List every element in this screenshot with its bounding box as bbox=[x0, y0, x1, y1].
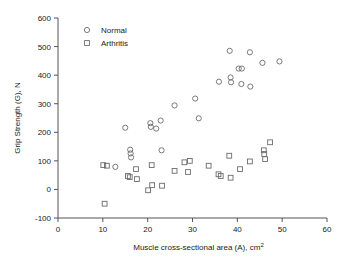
data-point-arthritis bbox=[160, 183, 165, 188]
data-point-normal bbox=[123, 125, 128, 130]
data-point-normal bbox=[216, 79, 221, 84]
data-point-arthritis bbox=[186, 170, 191, 175]
chart-data-points bbox=[101, 48, 282, 206]
y-tick-label: 200 bbox=[38, 128, 52, 137]
data-point-normal bbox=[154, 126, 159, 131]
data-point-arthritis bbox=[135, 177, 140, 182]
legend-label-normal: Normal bbox=[101, 26, 127, 35]
data-point-normal bbox=[148, 124, 153, 129]
data-point-normal bbox=[228, 80, 233, 85]
data-point-normal bbox=[172, 103, 177, 108]
data-point-arthritis bbox=[268, 140, 273, 145]
data-point-arthritis bbox=[172, 168, 177, 173]
data-point-arthritis bbox=[102, 201, 107, 206]
x-tick-label: 50 bbox=[278, 225, 287, 234]
data-point-normal bbox=[196, 116, 201, 121]
scatter-chart: -10001002003004005006000102030405060 Nor… bbox=[0, 0, 346, 269]
x-tick-label: 20 bbox=[143, 225, 152, 234]
legend-marker-normal bbox=[84, 27, 89, 32]
data-point-arthritis bbox=[228, 175, 233, 180]
data-point-normal bbox=[227, 48, 232, 53]
data-point-arthritis bbox=[206, 163, 211, 168]
data-point-normal bbox=[228, 75, 233, 80]
data-point-normal bbox=[239, 66, 244, 71]
chart-axes: -10001002003004005006000102030405060 bbox=[35, 14, 332, 234]
y-tick-label: -100 bbox=[35, 214, 52, 223]
data-point-normal bbox=[239, 81, 244, 86]
legend-label-arthritis: Arthritis bbox=[101, 39, 128, 48]
data-point-arthritis bbox=[238, 167, 243, 172]
data-point-arthritis bbox=[227, 153, 232, 158]
data-point-normal bbox=[159, 148, 164, 153]
data-point-normal bbox=[247, 50, 252, 55]
chart-canvas: -10001002003004005006000102030405060 Nor… bbox=[0, 0, 346, 269]
x-tick-label: 0 bbox=[56, 225, 61, 234]
legend-marker-arthritis bbox=[85, 41, 90, 46]
y-axis-title: Grip Strength (G), N bbox=[13, 82, 22, 154]
data-point-normal bbox=[113, 164, 118, 169]
x-tick-label: 40 bbox=[233, 225, 242, 234]
y-tick-label: 600 bbox=[38, 14, 52, 23]
data-point-arthritis bbox=[263, 157, 268, 162]
data-point-normal bbox=[260, 60, 265, 65]
y-tick-label: 400 bbox=[38, 71, 52, 80]
data-point-normal bbox=[193, 96, 198, 101]
data-point-arthritis bbox=[182, 160, 187, 165]
y-tick-label: 300 bbox=[38, 100, 52, 109]
data-point-normal bbox=[158, 118, 163, 123]
chart-legend: NormalArthritis bbox=[84, 26, 128, 48]
data-point-arthritis bbox=[247, 159, 252, 164]
x-tick-label: 60 bbox=[323, 225, 332, 234]
data-point-arthritis bbox=[187, 158, 192, 163]
y-tick-label: 100 bbox=[38, 157, 52, 166]
x-tick-label: 30 bbox=[188, 225, 197, 234]
data-point-normal bbox=[248, 84, 253, 89]
data-point-arthritis bbox=[134, 167, 139, 172]
y-tick-label: 500 bbox=[38, 43, 52, 52]
data-point-arthritis bbox=[150, 183, 155, 188]
data-point-arthritis bbox=[149, 163, 154, 168]
x-tick-label: 10 bbox=[98, 225, 107, 234]
data-point-arthritis bbox=[146, 188, 151, 193]
x-axis-title: Muscle cross-sectional area (A), cm2 bbox=[133, 242, 264, 252]
y-tick-label: 0 bbox=[47, 185, 52, 194]
data-point-normal bbox=[277, 59, 282, 64]
x-axis-title-superscript: 2 bbox=[260, 242, 264, 248]
